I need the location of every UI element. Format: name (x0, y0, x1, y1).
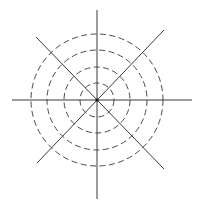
polar-grid-diagram (0, 0, 202, 206)
center-point (95, 98, 98, 101)
axes-group (12, 10, 192, 199)
diagonal-nw-se (36, 37, 164, 169)
